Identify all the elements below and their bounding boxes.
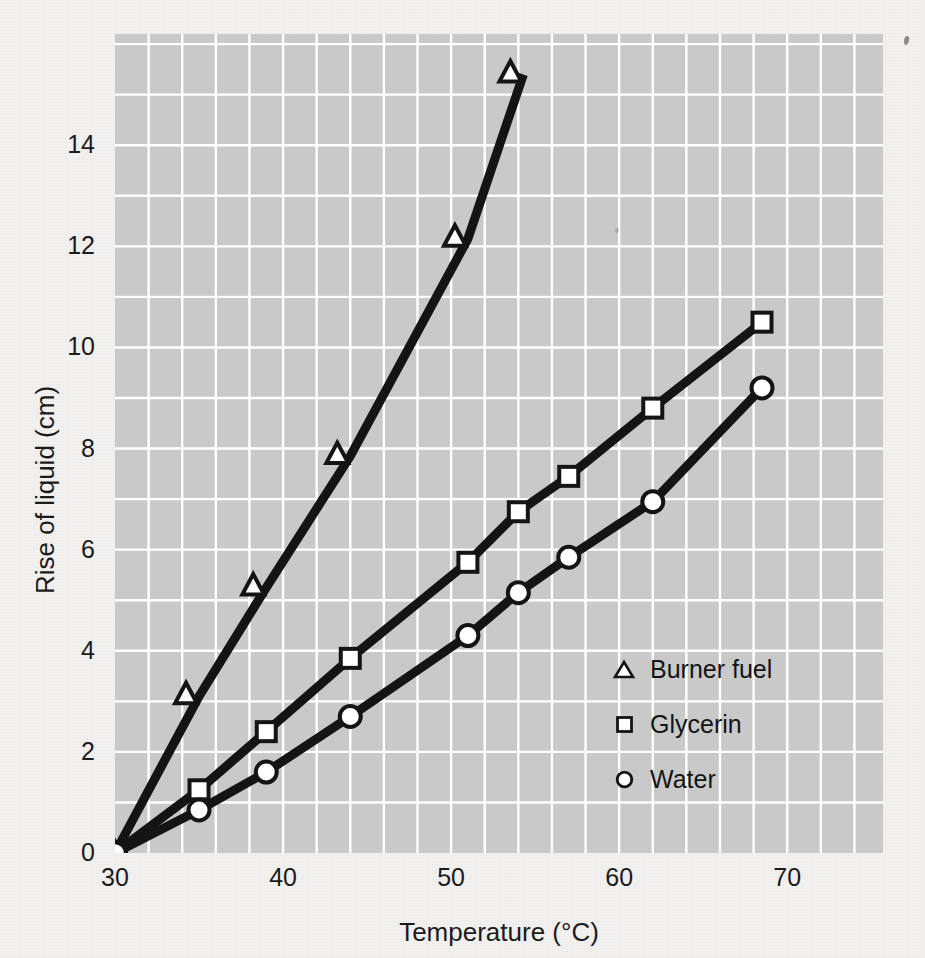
y-tick-label: 14 <box>40 132 95 157</box>
legend-label: Water <box>650 767 716 792</box>
x-tick-label: 50 <box>411 865 491 890</box>
legend-item-burner-fuel: Burner fuel <box>612 655 772 683</box>
x-axis-title: Temperature (°C) <box>115 917 883 948</box>
y-tick-label: 2 <box>40 739 95 764</box>
x-tick-label: 60 <box>579 865 659 890</box>
legend-item-water: Water <box>612 765 772 793</box>
y-tick-label: 12 <box>40 233 95 258</box>
x-tick-label: 40 <box>243 865 323 890</box>
circle-marker-icon <box>612 768 636 790</box>
x-tick-label: 70 <box>747 865 827 890</box>
triangle-marker-icon <box>612 658 636 680</box>
paper-speck <box>903 36 910 46</box>
square-marker-icon <box>612 713 636 735</box>
x-tick-label: 30 <box>75 865 155 890</box>
legend-label: Burner fuel <box>650 657 772 682</box>
y-tick-label: 4 <box>40 638 95 663</box>
legend-item-glycerin: Glycerin <box>612 710 772 738</box>
y-axis-title: Rise of liquid (cm) <box>30 385 61 593</box>
y-tick-label: 10 <box>40 334 95 359</box>
legend-label: Glycerin <box>650 712 742 737</box>
chart-figure: 02468101214 3040506070 Temperature (°C) … <box>0 0 925 958</box>
chart-legend: Burner fuel Glycerin Water <box>612 655 772 793</box>
y-tick-label: 0 <box>40 840 95 865</box>
